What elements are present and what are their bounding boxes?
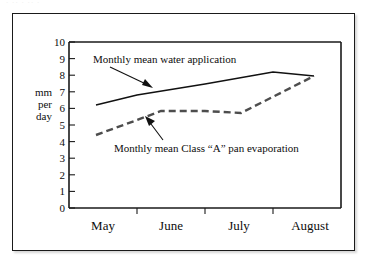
axes (69, 42, 341, 208)
y-tick-label-0: 0 (60, 202, 66, 214)
y-axis-tick-labels: 10 9 8 7 6 5 4 3 2 1 0 (54, 36, 66, 214)
annotation-water-application-leader (110, 67, 148, 85)
y-axis-title-line3: day (36, 110, 52, 122)
y-tick-label-9: 9 (60, 53, 66, 65)
y-tick-label-2: 2 (60, 169, 66, 181)
arrow-head-icon (145, 116, 155, 126)
y-tick-label-7: 7 (60, 86, 66, 98)
y-tick-label-4: 4 (60, 136, 66, 148)
annotation-water-application-label: Monthly mean water application (93, 53, 237, 65)
annotation-pan-evaporation-label: Monthly mean Class “A” pan evaporation (114, 142, 299, 154)
series-line-pan-evaporation (96, 76, 314, 135)
y-tick-label-3: 3 (60, 152, 66, 164)
y-axis-title-line2: per (38, 98, 52, 110)
y-tick-label-6: 6 (60, 102, 66, 114)
figure-container: · ·· · ·· · 10 9 8 (0, 0, 368, 265)
series-line-water-application (96, 72, 314, 105)
y-tick-label-1: 1 (60, 185, 66, 197)
x-tick-label-june: June (159, 218, 183, 233)
y-axis-title: mm per day (35, 86, 53, 122)
y-axis-ticks (69, 42, 75, 208)
y-tick-label-5: 5 (60, 119, 66, 131)
x-axis-tick-labels: May June July August (91, 218, 329, 233)
x-tick-label-july: July (228, 218, 250, 233)
annotation-pan-evaporation: Monthly mean Class “A” pan evaporation (114, 116, 299, 154)
arrow-head-icon (142, 79, 153, 88)
x-tick-label-august: August (291, 218, 329, 233)
x-tick-label-may: May (91, 218, 115, 233)
y-tick-label-8: 8 (60, 69, 66, 81)
x-axis-ticks (137, 208, 273, 214)
y-tick-label-10: 10 (54, 36, 66, 48)
y-axis-title-line1: mm (35, 86, 53, 98)
line-chart: 10 9 8 7 6 5 4 3 2 1 0 mm per day May Ju… (0, 0, 368, 265)
